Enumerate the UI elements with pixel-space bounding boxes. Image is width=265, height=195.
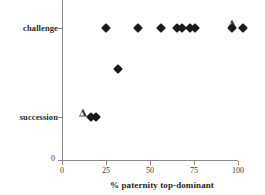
data-point-diamond bbox=[156, 23, 166, 33]
x-axis-label-50: 50 bbox=[135, 166, 165, 175]
x-axis-label-25: 25 bbox=[91, 166, 121, 175]
x-tick-0 bbox=[62, 161, 63, 165]
data-point-diamond bbox=[238, 23, 248, 33]
y-axis-line bbox=[62, 0, 63, 161]
x-tick-50 bbox=[150, 161, 151, 165]
y-axis-label-succession: succession bbox=[6, 112, 58, 122]
x-axis-label-100: 100 bbox=[223, 166, 253, 175]
x-tick-100 bbox=[238, 161, 239, 165]
y-tick-succession bbox=[58, 117, 62, 118]
x-axis-title: % paternity top-dominant bbox=[62, 180, 262, 190]
data-point-diamond bbox=[113, 64, 123, 74]
x-tick-75 bbox=[194, 161, 195, 165]
scatter-plot-figure: challenge succession 0 0 25 50 75 100 % … bbox=[0, 0, 265, 195]
y-tick-challenge bbox=[58, 28, 62, 29]
x-axis-label-75: 75 bbox=[179, 166, 209, 175]
data-point-diamond bbox=[190, 23, 200, 33]
data-point-diamond bbox=[101, 23, 111, 33]
y-axis-label-challenge: challenge bbox=[6, 23, 58, 33]
y-axis-label-zero: 0 bbox=[0, 154, 55, 163]
x-tick-25 bbox=[106, 161, 107, 165]
data-point-diamond bbox=[133, 23, 143, 33]
x-axis-label-0: 0 bbox=[47, 166, 77, 175]
